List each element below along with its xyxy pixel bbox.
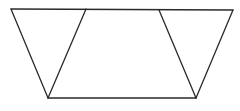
- top-edge: [11, 9, 233, 10]
- trapezoid-diagram: [0, 0, 240, 111]
- right-outer-edge: [196, 10, 233, 98]
- left-inner-edge: [48, 9, 86, 98]
- right-inner-edge: [159, 10, 196, 98]
- left-outer-edge: [11, 9, 48, 98]
